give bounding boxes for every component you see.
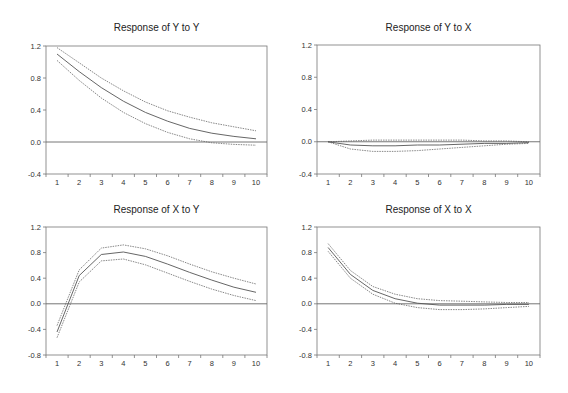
x-tick-label: 5 — [415, 359, 419, 368]
y-tick-label: 0.4 — [302, 274, 312, 283]
confidence-band-line — [328, 244, 529, 303]
x-tick-label: 9 — [504, 359, 508, 368]
x-tick-label: 4 — [393, 359, 397, 368]
x-tick-label: 10 — [525, 359, 533, 368]
x-tick-label: 1 — [326, 359, 330, 368]
y-tick-label: 1.2 — [302, 223, 312, 232]
x-tick-label: 8 — [482, 359, 486, 368]
response-line — [328, 248, 529, 306]
x-tick-label: 7 — [460, 359, 464, 368]
y-tick-label: -0.4 — [299, 325, 312, 334]
x-tick-label: 3 — [371, 359, 375, 368]
y-tick-label: -0.8 — [299, 351, 312, 360]
y-tick-label: 0.8 — [302, 248, 312, 257]
x-tick-label: 2 — [348, 359, 352, 368]
y-tick-label: 0.0 — [302, 299, 312, 308]
chart-panel-x-to-x: Response of X to X 1.20.80.40.0-0.4-0.81… — [0, 0, 568, 393]
plot-area: 1.20.80.40.0-0.4-0.812345678910 — [0, 0, 568, 393]
x-tick-label: 6 — [438, 359, 442, 368]
plot-frame — [317, 227, 540, 355]
